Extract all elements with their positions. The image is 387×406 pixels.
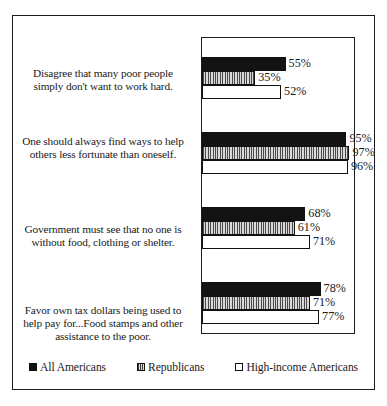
legend-label: High-income Americans [246,361,358,374]
bar-row: 95% [202,132,354,146]
bar-value-label: 71% [310,295,335,310]
bar-row: 96% [202,160,354,174]
legend-label: All Americans [40,361,106,374]
legend-item-republicans[interactable]: Republicans [137,361,204,374]
category-label: Government must see that no one is witho… [19,223,187,249]
bar-high-income[interactable] [202,160,348,174]
bar-value-label: 78% [321,281,346,296]
bar-republicans[interactable] [202,71,255,85]
bar-all-americans[interactable] [202,207,305,221]
bar-all-americans[interactable] [202,132,346,146]
category-label: Favor own tax dollars being used to help… [19,304,187,344]
bar-value-label: 61% [295,220,320,235]
chart-body: Disagree that many poor people simply do… [13,16,374,346]
solid-square-icon [29,363,37,371]
bar-value-label: 95% [346,131,371,146]
bar-value-label: 77% [319,309,344,324]
bar-row: 55% [202,57,354,71]
bar-all-americans[interactable] [202,57,286,71]
bar-high-income[interactable] [202,310,319,324]
bar-value-label: 71% [310,234,335,249]
bar-row: 61% [202,221,354,235]
bar-group: 95% 97% 96% [202,132,354,176]
bar-row: 97% [202,146,354,160]
bar-row: 77% [202,310,354,324]
legend-label: Republicans [148,361,204,374]
bar-republicans[interactable] [202,146,349,160]
bar-value-label: 55% [286,56,311,71]
bar-value-label: 97% [349,145,374,160]
bar-group: 78% 71% 77% [202,282,354,326]
category-label: Disagree that many poor people simply do… [19,67,187,93]
chart-frame: Disagree that many poor people simply do… [12,15,375,390]
plot-area: 55% 35% 52% 95% 97% [201,37,355,334]
bar-row: 52% [202,85,354,99]
category-label: One should always find ways to help othe… [19,135,187,161]
chart-legend: All Americans Republicans High-income Am… [13,356,374,378]
bar-row: 35% [202,71,354,85]
category-label-column: Disagree that many poor people simply do… [13,16,189,346]
bar-value-label: 52% [281,84,306,99]
legend-item-high-income[interactable]: High-income Americans [235,361,358,374]
bar-group: 55% 35% 52% [202,57,354,101]
bar-group: 68% 61% 71% [202,207,354,251]
bar-value-label: 68% [305,206,330,221]
bar-row: 71% [202,235,354,249]
bar-row: 71% [202,296,354,310]
striped-square-icon [137,363,145,371]
bar-high-income[interactable] [202,235,310,249]
bar-value-label: 35% [255,70,280,85]
outlined-square-icon [235,363,243,371]
bar-republicans[interactable] [202,221,295,235]
bar-row: 68% [202,207,354,221]
legend-item-all-americans[interactable]: All Americans [29,361,106,374]
bar-value-label: 96% [348,159,373,174]
bar-high-income[interactable] [202,85,281,99]
bar-all-americans[interactable] [202,282,321,296]
bar-republicans[interactable] [202,296,310,310]
bar-row: 78% [202,282,354,296]
